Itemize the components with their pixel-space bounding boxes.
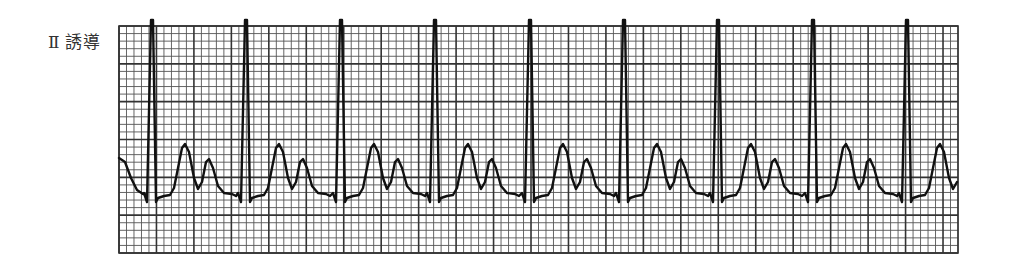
ecg-strip	[0, 0, 1012, 269]
